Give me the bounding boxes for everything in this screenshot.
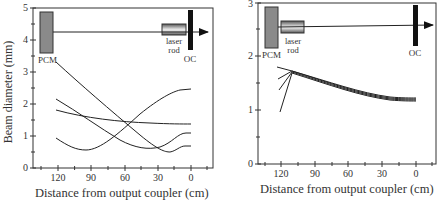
laser-rod	[162, 24, 186, 35]
right-x-tick-labels: 120 90 60 30 0	[274, 168, 419, 179]
x-tick-label: 60	[120, 172, 130, 183]
x-tick-label: 90	[86, 172, 96, 183]
series-line	[277, 67, 416, 98]
left-resonator-inset: PCM laser rod OC	[38, 10, 208, 65]
pcm-mirror	[40, 12, 53, 53]
right-chart: 0 1 2 3 120 90 60 30 0 Distance from out…	[248, 0, 436, 196]
series-line	[56, 62, 191, 152]
y-tick-label: 2	[248, 50, 253, 61]
x-tick-label: 0	[189, 172, 194, 183]
y-tick-label: 3	[23, 66, 28, 77]
x-tick-label: 0	[414, 168, 419, 179]
pcm-label: PCM	[262, 50, 281, 60]
pcm-mirror	[265, 7, 278, 48]
left-y-axis-label: Beam diameter (mm)	[1, 41, 15, 144]
left-x-axis-label: Distance from output coupler (cm)	[35, 186, 209, 200]
rod-label: rod	[287, 45, 299, 55]
left-y-tick-labels: 0 1 2 3 4 5	[23, 2, 28, 173]
x-tick-label: 120	[274, 168, 289, 179]
left-chart: 0 1 2 3 4 5 Beam diameter (mm) 120 90 60…	[1, 2, 213, 200]
series-line	[279, 72, 416, 100]
series-line	[280, 73, 416, 112]
x-tick-label: 60	[343, 168, 353, 179]
left-x-tick-labels: 120 90 60 30 0	[51, 172, 194, 183]
x-tick-label: 30	[153, 172, 163, 183]
oc-mirror	[188, 10, 193, 50]
y-tick-label: 0	[23, 162, 28, 173]
oc-label: OC	[184, 54, 197, 64]
oc-label: OC	[409, 48, 422, 58]
right-y-tick-labels: 0 1 2 3	[248, 0, 253, 169]
y-tick-label: 0	[248, 158, 253, 169]
right-resonator-inset: PCM laser rod OC	[262, 5, 433, 60]
y-tick-label: 3	[248, 0, 253, 9]
y-tick-label: 1	[248, 104, 253, 115]
x-tick-label: 120	[51, 172, 66, 183]
pcm-label: PCM	[38, 55, 57, 65]
right-x-axis-label: Distance from output coupler (cm)	[260, 182, 434, 196]
oc-mirror	[413, 5, 418, 46]
right-series	[277, 67, 416, 112]
x-tick-label: 30	[377, 168, 387, 179]
x-tick-label: 90	[310, 168, 320, 179]
figure: 0 1 2 3 4 5 Beam diameter (mm) 120 90 60…	[0, 0, 443, 204]
left-series	[56, 62, 191, 152]
y-tick-label: 5	[23, 2, 28, 13]
y-tick-label: 2	[23, 98, 28, 109]
rod-label: rod	[168, 45, 180, 55]
y-tick-label: 1	[23, 130, 28, 141]
y-tick-label: 4	[23, 34, 28, 45]
